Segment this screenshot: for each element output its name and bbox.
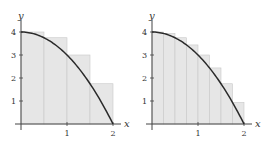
y-tick-label: 3 bbox=[142, 51, 147, 60]
x-axis-label: x bbox=[255, 118, 261, 129]
x-tick-label: 2 bbox=[110, 129, 115, 138]
riemann-sum-figure: 121234xy121234xy bbox=[0, 0, 269, 143]
riemann-plot-n8: 121234xy bbox=[142, 10, 261, 138]
x-tick-label: 1 bbox=[64, 129, 69, 138]
rectangle-bar bbox=[67, 55, 90, 124]
x-tick-label: 2 bbox=[241, 129, 246, 138]
y-axis-label: y bbox=[148, 10, 155, 21]
y-axis-label: y bbox=[17, 10, 24, 21]
rectangle-bar bbox=[164, 33, 176, 124]
y-tick-label: 1 bbox=[11, 97, 16, 106]
riemann-plot-n4: 121234xy bbox=[11, 10, 130, 138]
y-tick-label: 4 bbox=[11, 28, 16, 37]
x-axis-label: x bbox=[124, 118, 130, 129]
y-tick-label: 4 bbox=[142, 28, 147, 37]
y-tick-label: 2 bbox=[11, 74, 16, 83]
rectangle-bar bbox=[175, 38, 187, 124]
rectangle-bar bbox=[187, 45, 199, 124]
y-tick-label: 1 bbox=[142, 97, 147, 106]
y-tick-label: 3 bbox=[11, 51, 16, 60]
y-tick-label: 2 bbox=[142, 74, 147, 83]
rectangle-bar bbox=[221, 84, 233, 124]
rectangle-bar bbox=[21, 32, 44, 124]
x-tick-label: 1 bbox=[195, 129, 200, 138]
